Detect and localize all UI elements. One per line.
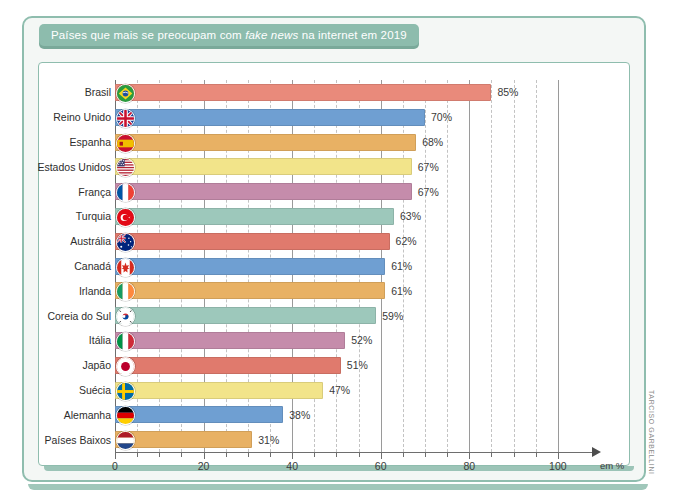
bar-8 bbox=[115, 282, 385, 299]
x-tick-55 bbox=[359, 452, 360, 457]
flag-japan-icon bbox=[116, 357, 135, 376]
bar-value-label-5: 63% bbox=[400, 210, 421, 222]
flag-italy-icon bbox=[116, 332, 135, 351]
x-tick-5 bbox=[137, 452, 138, 457]
x-axis-arrow-icon bbox=[592, 447, 601, 457]
bar-value-label-1: 70% bbox=[431, 111, 452, 123]
image-credit: TARCISO GARBELLINI bbox=[648, 390, 655, 475]
x-tick-80 bbox=[469, 452, 470, 459]
category-label-9: Coreia do Sul bbox=[47, 311, 111, 322]
x-tick-45 bbox=[314, 452, 315, 457]
bar-value-label-6: 62% bbox=[396, 235, 417, 247]
bar-value-label-2: 68% bbox=[422, 136, 443, 148]
x-tick-0 bbox=[115, 452, 116, 459]
title-suffix: na internet em 2019 bbox=[298, 29, 407, 41]
x-tick-75 bbox=[447, 452, 448, 457]
bar-6 bbox=[115, 233, 390, 250]
x-tick-label-0: 0 bbox=[112, 460, 118, 472]
flag-canada-icon bbox=[116, 258, 135, 277]
category-label-13: Alemanha bbox=[64, 410, 111, 421]
bar-value-label-14: 31% bbox=[258, 434, 279, 446]
x-tick-100 bbox=[558, 452, 559, 459]
title-prefix: Países que mais se preocupam com bbox=[51, 29, 245, 41]
x-tick-90 bbox=[514, 452, 515, 457]
category-label-2: Espanha bbox=[70, 137, 111, 148]
flag-spain-icon bbox=[116, 134, 135, 153]
bar-11 bbox=[115, 357, 341, 374]
category-label-14: Países Baixos bbox=[44, 435, 111, 446]
bar-13 bbox=[115, 406, 283, 423]
flag-sweden-icon bbox=[116, 382, 135, 401]
flag-netherlands-icon bbox=[116, 431, 135, 450]
x-tick-label-40: 40 bbox=[286, 460, 298, 472]
figure-frame-shadow bbox=[28, 484, 648, 490]
category-label-4: França bbox=[78, 187, 111, 198]
bar-2 bbox=[115, 134, 416, 151]
flag-australia-icon bbox=[116, 233, 135, 252]
x-tick-25 bbox=[226, 452, 227, 457]
x-tick-label-60: 60 bbox=[375, 460, 387, 472]
bar-14 bbox=[115, 431, 252, 448]
bar-value-label-10: 52% bbox=[351, 334, 372, 346]
flag-south-korea-icon bbox=[116, 307, 135, 326]
x-axis-line bbox=[115, 452, 593, 453]
x-tick-30 bbox=[248, 452, 249, 457]
flag-united-kingdom-icon bbox=[116, 109, 135, 128]
flag-brazil-icon bbox=[116, 84, 135, 103]
flag-france-icon bbox=[116, 183, 135, 202]
category-label-12: Suécia bbox=[79, 385, 111, 396]
x-tick-label-100: 100 bbox=[549, 460, 567, 472]
bar-4 bbox=[115, 183, 412, 200]
x-axis-unit-label: em % bbox=[600, 460, 624, 471]
bar-5 bbox=[115, 208, 394, 225]
bar-0 bbox=[115, 84, 491, 101]
bar-value-label-7: 61% bbox=[391, 260, 412, 272]
x-tick-20 bbox=[204, 452, 205, 459]
x-tick-label-20: 20 bbox=[198, 460, 210, 472]
category-label-1: Reino Unido bbox=[53, 112, 111, 123]
category-label-0: Brasil bbox=[85, 87, 111, 98]
chart-panel-shadow bbox=[44, 466, 634, 471]
bar-value-label-8: 61% bbox=[391, 285, 412, 297]
x-tick-70 bbox=[425, 452, 426, 457]
category-label-10: Itália bbox=[89, 335, 111, 346]
page-title: Países que mais se preocupam com fake ne… bbox=[51, 29, 407, 41]
bar-value-label-11: 51% bbox=[347, 359, 368, 371]
bar-value-label-3: 67% bbox=[418, 161, 439, 173]
chart-title-tab: Países que mais se preocupam com fake ne… bbox=[39, 24, 419, 46]
category-label-3: Estados Unidos bbox=[37, 162, 111, 173]
bar-value-label-0: 85% bbox=[497, 86, 518, 98]
bar-value-label-13: 38% bbox=[289, 409, 310, 421]
title-italic: fake news bbox=[245, 29, 298, 41]
flag-turkey-icon bbox=[116, 208, 135, 227]
category-label-11: Japão bbox=[82, 360, 111, 371]
category-label-5: Turquia bbox=[76, 211, 111, 222]
x-tick-95 bbox=[536, 452, 537, 457]
x-tick-40 bbox=[292, 452, 293, 459]
x-tick-35 bbox=[270, 452, 271, 457]
bar-value-label-9: 59% bbox=[382, 310, 403, 322]
x-tick-65 bbox=[403, 452, 404, 457]
category-label-7: Canadá bbox=[74, 261, 111, 272]
chart-figure: Países que mais se preocupam com fake ne… bbox=[0, 0, 674, 501]
x-tick-label-80: 80 bbox=[463, 460, 475, 472]
x-tick-15 bbox=[181, 452, 182, 457]
category-label-8: Irlanda bbox=[79, 286, 111, 297]
bar-value-label-4: 67% bbox=[418, 186, 439, 198]
bar-12 bbox=[115, 382, 323, 399]
bar-3 bbox=[115, 158, 412, 175]
x-tick-10 bbox=[159, 452, 160, 457]
bar-1 bbox=[115, 109, 425, 126]
bar-value-label-12: 47% bbox=[329, 384, 350, 396]
bar-7 bbox=[115, 258, 385, 275]
bar-10 bbox=[115, 332, 345, 349]
x-tick-50 bbox=[336, 452, 337, 457]
x-tick-60 bbox=[381, 452, 382, 459]
x-tick-85 bbox=[491, 452, 492, 457]
bar-9 bbox=[115, 307, 376, 324]
category-label-6: Austrália bbox=[70, 236, 111, 247]
